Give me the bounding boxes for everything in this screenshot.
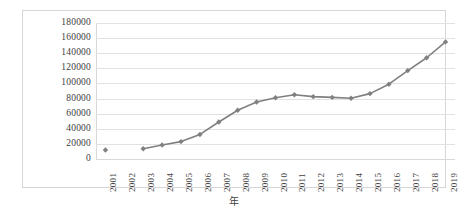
plot-area: [96, 23, 455, 159]
x-axis-tick-label: 2015: [374, 173, 383, 192]
x-axis-tick-label: 2008: [242, 173, 251, 192]
x-axis-tick-label: 2002: [128, 173, 137, 192]
x-axis-title: 年: [23, 197, 445, 207]
data-point-marker: [273, 95, 278, 100]
data-point-marker: [311, 94, 316, 99]
x-axis-tick-label: 2017: [412, 173, 421, 192]
data-point-marker: [178, 139, 183, 144]
gridline: [96, 159, 455, 160]
x-axis-tick-label: 2003: [147, 173, 156, 192]
x-axis-tick-label: 2001: [109, 173, 118, 192]
x-axis-tick-label: 2006: [204, 173, 213, 192]
y-axis-tick-label: 0: [31, 154, 91, 164]
data-point-marker: [367, 91, 372, 96]
y-axis-tick-label: 160000: [31, 33, 91, 43]
y-axis-tick-label: 140000: [31, 48, 91, 58]
y-axis-tick-label: 20000: [31, 139, 91, 149]
y-axis-tick-label: 100000: [31, 78, 91, 88]
y-axis-tick-label: 120000: [31, 63, 91, 73]
data-point-marker: [159, 142, 164, 147]
x-axis-tick-labels: 2001200220032004200520062007200820092010…: [96, 162, 455, 196]
x-axis-tick-label: 2007: [223, 173, 232, 192]
x-axis-tick-label: 2018: [431, 173, 440, 192]
data-point-marker: [254, 99, 259, 104]
line-series: [96, 23, 455, 159]
x-axis-tick-label: 2009: [261, 173, 270, 192]
x-axis-tick-label: 2004: [166, 173, 175, 192]
x-axis-tick-label: 2005: [185, 173, 194, 192]
x-axis-tick-label: 2019: [450, 173, 459, 192]
x-axis-tick-label: 2012: [317, 173, 326, 192]
data-point-marker: [329, 95, 334, 100]
y-axis-tick-label: 80000: [31, 94, 91, 104]
x-axis-tick-label: 2011: [298, 173, 307, 192]
data-point-marker: [103, 147, 108, 152]
x-axis-tick-label: 2013: [336, 173, 345, 192]
y-axis-tick-label: 60000: [31, 109, 91, 119]
chart-frame: 1800001600001400001200001000008000060000…: [22, 10, 446, 188]
data-point-marker: [348, 95, 353, 100]
x-axis-tick-label: 2016: [393, 173, 402, 192]
y-axis-tick-label: 40000: [31, 124, 91, 134]
data-point-marker: [292, 92, 297, 97]
x-axis-tick-label: 2010: [280, 173, 289, 192]
data-point-marker: [141, 146, 146, 151]
y-axis-tick-labels: 1800001600001400001200001000008000060000…: [27, 23, 91, 159]
y-axis-tick-label: 180000: [31, 18, 91, 28]
x-axis-tick-label: 2014: [355, 173, 364, 192]
